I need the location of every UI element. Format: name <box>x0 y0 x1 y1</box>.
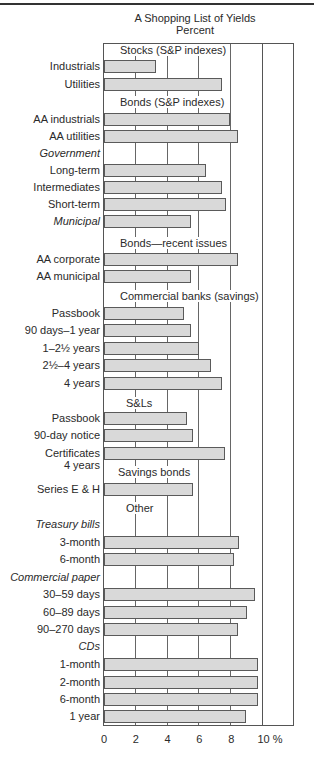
bar <box>104 676 258 689</box>
x-tick-label: 0 <box>101 733 107 745</box>
subgroup-label: Treasury bills <box>35 518 100 530</box>
subgroup-label: Commercial paper <box>10 571 100 583</box>
category-label: 2-month <box>60 676 100 688</box>
bar <box>104 164 206 177</box>
bar <box>104 113 230 126</box>
bar <box>104 429 193 442</box>
category-label: 6-month <box>60 553 100 565</box>
bar <box>104 324 191 337</box>
category-label: Certificates <box>45 447 100 459</box>
category-label: 90-day notice <box>34 429 100 441</box>
top-rule <box>0 3 314 5</box>
section-header: Stocks (S&P indexes) <box>118 44 228 56</box>
category-label: 1–2½ years <box>43 342 100 354</box>
plot-area <box>103 43 294 726</box>
category-label: AA corporate <box>36 253 100 265</box>
section-header: Bonds—recent issues <box>118 237 229 249</box>
x-tick-label: 8 <box>228 733 234 745</box>
section-header: Bonds (S&P indexes) <box>118 96 226 108</box>
bar <box>104 483 193 496</box>
bar <box>104 60 156 73</box>
bar <box>104 693 258 706</box>
bar <box>104 342 199 355</box>
subgroup-label: CDs <box>79 640 100 652</box>
chart-subtitle: Percent <box>100 24 290 36</box>
bar <box>104 536 239 549</box>
category-label: 30–59 days <box>43 588 100 600</box>
category-label: 6-month <box>60 693 100 705</box>
bar <box>104 553 234 566</box>
bar <box>104 658 258 671</box>
category-label: Long-term <box>50 164 100 176</box>
bar <box>104 710 246 723</box>
category-label: AA industrials <box>33 113 100 125</box>
bar <box>104 130 238 143</box>
category-label: Municipal <box>54 215 100 227</box>
category-label: Intermediates <box>33 181 100 193</box>
x-tick-label: 6 <box>196 733 202 745</box>
chart-title: A Shopping List of Yields <box>100 12 290 24</box>
bar <box>104 412 187 425</box>
section-header: Other <box>124 502 156 514</box>
bar <box>104 359 211 372</box>
category-label: 90–270 days <box>37 623 100 635</box>
category-label: 2½–4 years <box>43 359 100 371</box>
category-label: 1-month <box>60 658 100 670</box>
section-header: S&Ls <box>124 397 154 409</box>
category-label: Short-term <box>48 198 100 210</box>
category-label-line2: 4 years <box>64 459 100 471</box>
bar <box>104 270 191 283</box>
category-label: AA utilities <box>49 130 100 142</box>
category-label: Passbook <box>52 412 100 424</box>
bar <box>104 588 255 601</box>
category-label: AA municipal <box>36 270 100 282</box>
category-label: 90 days–1 year <box>25 324 100 336</box>
category-label: Industrials <box>50 60 100 72</box>
category-label: 1 year <box>69 710 100 722</box>
bar <box>104 198 226 211</box>
category-label: Passbook <box>52 307 100 319</box>
bar <box>104 307 184 320</box>
x-tick-label: 2 <box>133 733 139 745</box>
gridline <box>262 44 263 725</box>
x-tick-label: 4 <box>165 733 171 745</box>
category-label: Series E & H <box>37 483 100 495</box>
category-label: 60–89 days <box>43 606 100 618</box>
bar <box>104 253 238 266</box>
bar <box>104 181 222 194</box>
section-header: Savings bonds <box>116 466 192 478</box>
bar <box>104 606 247 619</box>
section-header: Commercial banks (savings) <box>118 290 261 302</box>
bar <box>104 377 222 390</box>
bar <box>104 78 222 91</box>
bar <box>104 623 238 636</box>
bar <box>104 447 225 460</box>
category-label: Utilities <box>65 78 100 90</box>
category-label: 4 years <box>64 377 100 389</box>
bar <box>104 215 191 228</box>
category-label: 3-month <box>60 536 100 548</box>
subgroup-label: Government <box>39 147 100 159</box>
x-tick-label: 10 % <box>257 733 282 745</box>
